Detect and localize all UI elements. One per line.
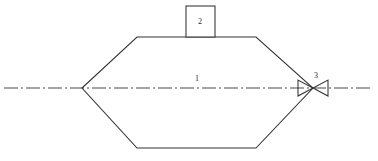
callout-label-top-fitting: 2 [198,17,202,26]
technical-diagram: 1 2 3 [0,0,378,161]
callout-label-valve: 3 [314,71,318,80]
diagram-canvas: 1 2 3 [0,0,378,161]
vessel-body-outline [82,37,313,148]
callout-label-vessel: 1 [195,74,199,83]
